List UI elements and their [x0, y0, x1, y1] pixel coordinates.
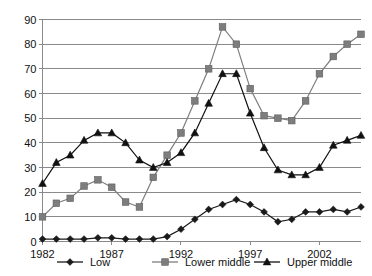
data-point-square	[302, 98, 309, 105]
data-point-triangle	[122, 139, 130, 146]
legend-item-upper-middle[interactable]: Upper middle	[254, 256, 352, 268]
data-point-diamond	[316, 209, 323, 216]
legend-label: Lower middle	[185, 256, 250, 268]
data-point-square	[247, 85, 254, 92]
x-axis-tick-label: 1982	[30, 248, 54, 260]
y-axis-tick-label: 60	[24, 88, 36, 100]
y-axis-tick-label: 40	[24, 137, 36, 149]
data-point-square	[53, 200, 60, 207]
data-point-square	[39, 214, 46, 221]
data-point-square	[288, 117, 295, 124]
data-point-square	[122, 199, 129, 206]
data-point-diamond	[108, 234, 115, 241]
line-chart: 0102030405060708090 19821987199219972002…	[0, 0, 372, 276]
y-axis-labels: 0102030405060708090	[24, 14, 36, 248]
data-point-diamond	[67, 259, 74, 266]
data-point-triangle	[274, 166, 282, 173]
legend-label: Upper middle	[287, 256, 352, 268]
data-point-diamond	[358, 204, 365, 211]
chart-container: 0102030405060708090 19821987199219972002…	[0, 0, 372, 276]
data-point-triangle	[53, 159, 61, 166]
data-point-square	[316, 70, 323, 77]
data-point-triangle	[316, 164, 324, 171]
legend-item-lower-middle[interactable]: Lower middle	[152, 256, 250, 268]
chart-legend: LowLower middleUpper middle	[57, 256, 352, 268]
series-lower-middle	[39, 24, 364, 221]
data-point-triangle	[357, 131, 365, 138]
data-point-square	[162, 259, 169, 266]
data-point-triangle	[260, 144, 268, 151]
series-line	[43, 200, 362, 239]
data-point-square	[164, 152, 171, 159]
y-axis-tick-label: 0	[30, 236, 36, 248]
data-point-diamond	[219, 201, 226, 208]
data-point-diamond	[164, 233, 171, 240]
data-point-triangle	[191, 129, 199, 136]
data-point-square	[95, 177, 102, 184]
y-axis-tick-label: 50	[24, 112, 36, 124]
data-point-diamond	[247, 201, 254, 208]
y-axis-tick-label: 30	[24, 162, 36, 174]
data-point-diamond	[94, 234, 101, 241]
series-upper-middle	[39, 70, 365, 187]
data-point-square	[344, 41, 351, 48]
series-line	[43, 27, 362, 217]
data-point-square	[67, 195, 74, 202]
series-layer	[39, 24, 365, 243]
data-point-diamond	[302, 209, 309, 216]
data-point-square	[136, 204, 143, 211]
data-point-square	[108, 184, 115, 191]
data-point-square	[178, 130, 185, 137]
data-point-square	[81, 183, 88, 190]
legend-label: Low	[90, 256, 110, 268]
axes-layer	[39, 20, 361, 246]
data-point-diamond	[330, 206, 337, 213]
y-axis-tick-label: 80	[24, 38, 36, 50]
data-point-square	[219, 24, 226, 31]
y-axis-tick-label: 90	[24, 14, 36, 26]
y-axis-tick-label: 70	[24, 63, 36, 75]
data-point-square	[205, 66, 212, 73]
data-point-square	[192, 98, 199, 105]
data-point-square	[261, 112, 268, 119]
data-point-square	[275, 115, 282, 122]
data-point-diamond	[233, 196, 240, 203]
data-point-square	[150, 174, 157, 181]
data-point-square	[358, 31, 365, 38]
data-point-square	[330, 53, 337, 60]
data-point-triangle	[80, 136, 88, 143]
data-point-square	[233, 41, 240, 48]
y-axis-tick-label: 20	[24, 186, 36, 198]
data-point-diamond	[344, 209, 351, 216]
series-low	[39, 196, 364, 242]
y-axis-tick-label: 10	[24, 211, 36, 223]
legend-item-low[interactable]: Low	[57, 256, 110, 268]
grid-layer	[43, 20, 362, 242]
data-point-triangle	[246, 109, 254, 116]
data-point-triangle	[205, 99, 213, 106]
